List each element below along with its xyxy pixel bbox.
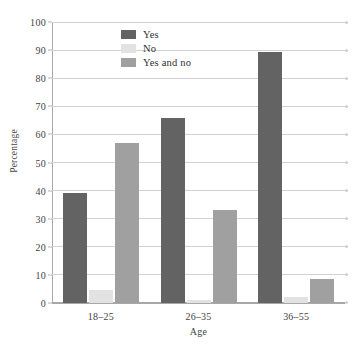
gridline-end-tick [345,189,348,192]
y-tick-label: 80 [35,73,46,84]
legend-item: Yes [121,27,191,41]
bar [187,300,211,303]
y-tick-label: 90 [35,45,46,56]
gridline-end-tick [345,21,348,24]
bars-layer [52,22,345,303]
bar-chart: Percentage 0102030405060708090100 18–252… [0,0,354,351]
legend-label: Yes [143,29,159,40]
y-tick-label: 30 [35,213,46,224]
bar [284,297,308,303]
gridline-end-tick [345,133,348,136]
bar [258,52,282,303]
gridline-end-tick [345,77,348,80]
chart-legend: YesNoYes and no [121,27,191,69]
y-tick-label: 10 [35,269,46,280]
bar [115,143,139,303]
legend-item: No [121,41,191,55]
y-tick-label: 40 [35,185,46,196]
gridline-end-tick [345,245,348,248]
y-tick-label: 0 [41,298,46,309]
legend-label: Yes and no [143,57,191,68]
x-tick-label: 26–35 [186,311,212,322]
x-axis-label: Age [52,326,345,337]
gridline-end-tick [345,217,348,220]
bar [213,210,237,303]
y-tick-label: 50 [35,157,46,168]
plot-area: 0102030405060708090100 18–2526–3536–55 [52,22,345,303]
legend-swatch-icon [121,58,136,67]
chart-title-clipped [0,0,354,5]
bar [161,118,185,303]
y-tick-label: 20 [35,241,46,252]
bar [89,290,113,303]
legend-swatch-icon [121,44,136,53]
gridline-end-tick [345,273,348,276]
legend-label: No [143,43,156,54]
bar [63,193,87,303]
gridline-end-tick [345,161,348,164]
y-tick-label: 100 [30,17,46,28]
y-tick-label: 60 [35,129,46,140]
gridline-end-tick [345,49,348,52]
gridline-end-tick [345,301,348,304]
gridline-end-tick [345,105,348,108]
legend-swatch-icon [121,30,136,39]
x-tick-label: 36–55 [283,311,309,322]
legend-item: Yes and no [121,55,191,69]
y-axis-label: Percentage [9,111,19,191]
bar [310,279,334,303]
x-tick-label: 18–25 [88,311,114,322]
y-tick-label: 70 [35,101,46,112]
